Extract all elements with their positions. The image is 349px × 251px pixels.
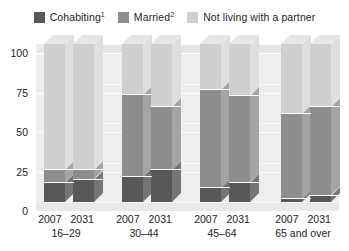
segment-not_living <box>200 44 221 90</box>
x-year-label: 2031 <box>71 213 94 226</box>
x-age-group-label: 30–44 <box>114 227 174 240</box>
y-tick-50: 50 <box>16 127 28 138</box>
segment-not_living <box>151 44 172 107</box>
x-age-group-label: 16–29 <box>36 227 96 240</box>
x-year-label: 2031 <box>227 213 250 226</box>
segment-face-cohabiting <box>151 170 172 202</box>
bar-series-container <box>36 44 339 211</box>
x-group-65-and-over: 2007203165 and over <box>273 213 333 240</box>
segment-face-married <box>200 90 221 188</box>
segment-face-married <box>229 96 250 183</box>
segment-cohabiting <box>310 196 331 202</box>
legend-item-married[interactable]: Married2 <box>118 12 174 23</box>
segment-face-not_living <box>151 44 172 107</box>
segment-not_living <box>281 44 302 114</box>
segment-face-not_living <box>229 44 250 96</box>
segment-face-cohabiting <box>229 183 250 202</box>
bar-30–44-2007[interactable] <box>122 44 143 202</box>
x-years: 20072031 <box>36 213 96 226</box>
segment-side-married <box>250 87 259 183</box>
bar-group-30–44 <box>122 44 181 202</box>
segment-divider <box>229 95 259 96</box>
segment-face-cohabiting <box>122 177 143 202</box>
segment-divider <box>200 187 230 188</box>
segment-divider <box>122 176 152 177</box>
segment-face-married <box>151 107 172 170</box>
segment-divider <box>151 106 181 107</box>
x-year-label: 2007 <box>38 213 61 226</box>
bar-45–64-2007[interactable] <box>200 44 221 202</box>
segment-divider <box>151 169 181 170</box>
legend-swatch-cohabiting <box>34 12 45 23</box>
segment-divider <box>44 169 74 170</box>
segment-face-not_living <box>122 44 143 95</box>
legend-label-not-living: Not living with a partner <box>203 12 315 23</box>
segment-cohabiting <box>44 183 65 202</box>
x-year-label: 2007 <box>116 213 139 226</box>
segment-divider <box>44 182 74 183</box>
x-year-label: 2007 <box>275 213 298 226</box>
gridline-0 <box>36 211 339 212</box>
segment-cohabiting <box>229 183 250 202</box>
segment-side-not_living <box>172 35 181 107</box>
x-year-label: 2007 <box>194 213 217 226</box>
segment-face-not_living <box>310 44 331 107</box>
bar-16–29-2007[interactable] <box>44 44 65 202</box>
bar-45–64-2031[interactable] <box>229 44 250 202</box>
segment-divider <box>310 195 340 196</box>
x-age-group-label: 65 and over <box>273 227 333 240</box>
segment-face-not_living <box>73 44 94 170</box>
segment-divider <box>122 94 152 95</box>
legend-item-not-living-with-a-partner[interactable]: Not living with a partner <box>187 12 315 23</box>
segment-face-cohabiting <box>44 183 65 202</box>
segment-not_living <box>229 44 250 96</box>
y-axis-labels: 0255075100 <box>0 38 32 218</box>
segment-divider <box>229 182 259 183</box>
segment-not_living <box>44 44 65 170</box>
legend-label-cohabiting: Cohabiting1 <box>50 12 105 23</box>
x-group-16–29: 2007203116–29 <box>36 213 96 240</box>
x-years: 20072031 <box>114 213 174 226</box>
segment-divider <box>73 179 103 180</box>
bar-65-and-over-2007[interactable] <box>281 44 302 202</box>
legend-item-cohabiting[interactable]: Cohabiting1 <box>34 12 105 23</box>
segment-cohabiting <box>73 180 94 202</box>
bar-group-16–29 <box>44 44 103 202</box>
segment-married <box>151 107 172 170</box>
y-tick-75: 75 <box>16 88 28 99</box>
segment-married <box>122 95 143 177</box>
segment-side-married <box>331 98 340 195</box>
plot-area <box>36 44 339 211</box>
segment-face-cohabiting <box>281 199 302 202</box>
bar-65-and-over-2031[interactable] <box>310 44 331 202</box>
legend-swatch-married <box>118 12 129 23</box>
segment-face-cohabiting <box>200 188 221 202</box>
bar-30–44-2031[interactable] <box>151 44 172 202</box>
x-group-45–64: 2007203145–64 <box>192 213 252 240</box>
y-tick-100: 100 <box>10 48 28 59</box>
segment-face-not_living <box>281 44 302 114</box>
x-years: 20072031 <box>273 213 333 226</box>
segment-married <box>229 96 250 183</box>
segment-divider <box>73 169 103 170</box>
segment-divider <box>281 113 311 114</box>
x-axis-labels: 2007203116–292007203130–442007203145–642… <box>0 213 349 251</box>
segment-divider <box>310 106 340 107</box>
bar-group-65-and-over <box>281 44 340 202</box>
segment-side-not_living <box>94 35 103 170</box>
y-tick-25: 25 <box>16 167 28 178</box>
x-year-label: 2031 <box>149 213 172 226</box>
segment-cohabiting <box>151 170 172 202</box>
segment-married <box>281 114 302 199</box>
legend-swatch-not-living <box>187 12 198 23</box>
segment-face-married <box>122 95 143 177</box>
chart-legend: Cohabiting1 Married2 Not living with a p… <box>0 8 349 26</box>
x-years: 20072031 <box>192 213 252 226</box>
segment-divider <box>200 89 230 90</box>
segment-face-cohabiting <box>310 196 331 202</box>
segment-face-not_living <box>44 44 65 170</box>
legend-label-married: Married2 <box>134 12 174 23</box>
segment-cohabiting <box>200 188 221 202</box>
x-year-label: 2031 <box>308 213 331 226</box>
bar-16–29-2031[interactable] <box>73 44 94 202</box>
